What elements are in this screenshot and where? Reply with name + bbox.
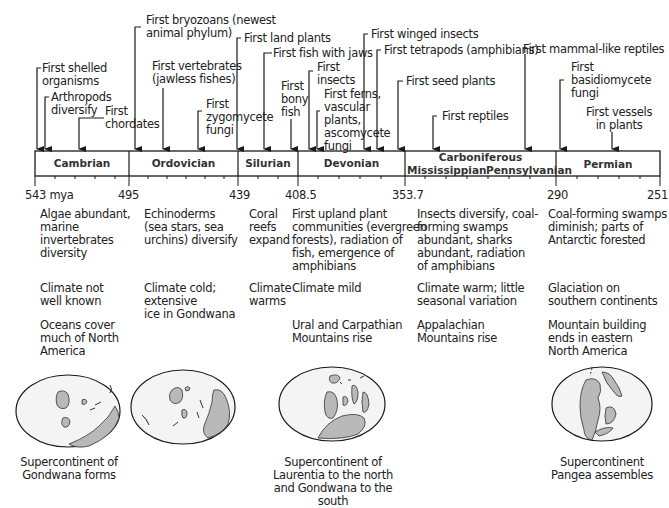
- silurian-climate: Climatewarms: [249, 282, 291, 308]
- map-2: [131, 370, 235, 444]
- arrow-reptiles: [433, 116, 437, 149]
- event-first-land-plants: First land plants: [244, 32, 331, 45]
- event-first-seed-plants: First seed plants: [406, 75, 495, 88]
- cambrian-climate: Climate notwell known: [40, 282, 103, 308]
- event-first-bony-fish: Firstbonyfish: [281, 80, 308, 119]
- event-first-ferns: First ferns,vascularplants,ascomycetefun…: [324, 88, 390, 153]
- boundary-label: 495: [118, 188, 139, 202]
- arrow-basidiomycete: [560, 80, 564, 149]
- permian-life: Coal-forming swampsdiminish; parts ofAnt…: [548, 208, 667, 247]
- ordovician-life: Echinoderms(sea stars, seaurchins) diver…: [144, 208, 238, 247]
- event-first-shelled-organisms: First shelledorganisms: [42, 62, 107, 88]
- map-1: [16, 375, 120, 447]
- event-first-vertebrates: First vertebrates(jawless fishes): [152, 60, 242, 86]
- map-caption-gondwana: Supercontinent ofGondwana forms: [10, 456, 128, 482]
- carboniferous-geology: AppalachianMountains rise: [417, 319, 497, 345]
- event-first-zygomycete-fungi: Firstzygomycetefungi: [206, 98, 273, 137]
- arrow-arthropods: [45, 97, 49, 149]
- period-ordovician: Ordovician: [129, 157, 238, 169]
- event-first-chordates: Firstchordates: [105, 105, 159, 131]
- boundary-label: 290: [547, 188, 568, 202]
- period-permian: Permian: [556, 158, 660, 170]
- event-first-basidiomycete-fungi: Firstbasidiomycetefungi: [571, 61, 651, 100]
- event-first-mammal-like-reptiles: First mammal-like reptiles: [523, 43, 664, 56]
- carboniferous-life: Insects diversify, coal-forming swampsab…: [417, 208, 538, 273]
- map-caption-laurentia: Supercontinent ofLaurentia to the northa…: [262, 456, 404, 508]
- carboniferous-climate: Climate warm; littleseasonal variation: [417, 282, 524, 308]
- event-first-winged-insects: First winged insects: [371, 28, 478, 41]
- event-arthropods-diversify: Arthropodsdiversify: [51, 91, 112, 117]
- period-cambrian: Cambrian: [35, 157, 129, 169]
- event-first-fish-with-jaws: First fish with jaws: [273, 47, 373, 60]
- boundary-label: 408.5: [285, 188, 316, 202]
- arrow-first-shelled: [37, 68, 41, 149]
- period-devonian: Devonian: [298, 157, 405, 169]
- event-first-insects: Firstinsects: [317, 61, 355, 87]
- arrow-insects: [309, 71, 313, 149]
- subperiod-mississippian: Mississippian: [407, 164, 486, 176]
- boundary-label: 353.7: [392, 188, 423, 202]
- boundary-label: 251: [647, 188, 668, 202]
- arrow-seed-plants: [398, 81, 403, 149]
- permian-geology: Mountain buildingends in easternNorth Am…: [548, 319, 646, 358]
- arrow-zygomycete: [198, 111, 202, 149]
- permian-climate: Glaciation onsouthern continents: [548, 282, 657, 308]
- cambrian-life: Algae abundant,marineinvertebratesdivers…: [40, 208, 130, 260]
- event-first-tetrapods: First tetrapods (amphibians): [384, 44, 538, 57]
- map-4: [552, 367, 652, 441]
- cambrian-geology: Oceans covermuch of NorthAmerica: [40, 319, 119, 358]
- map-3: [279, 367, 385, 441]
- boundary-label: 439: [229, 188, 250, 202]
- event-first-vessels-in-plants: First vesselsin plants: [586, 106, 652, 132]
- arrow-ferns: [317, 111, 320, 149]
- devonian-geology: Ural and CarpathianMountains rise: [292, 319, 402, 345]
- period-silurian: Silurian: [238, 157, 298, 169]
- boundary-label: 543 mya: [25, 188, 74, 202]
- map-caption-pangea: SupercontinentPangea assembles: [545, 456, 659, 482]
- event-first-reptiles: First reptiles: [442, 110, 508, 123]
- ordovician-climate: Climate cold;extensiveice in Gondwana: [144, 282, 235, 321]
- arrow-chordates: [79, 118, 104, 149]
- devonian-life: First upland plantcommunities (evergreen…: [292, 208, 427, 273]
- period-carboniferous: Carboniferous: [405, 151, 556, 163]
- devonian-climate: Climate mild: [292, 282, 361, 295]
- silurian-life: Coralreefsexpand: [249, 208, 290, 247]
